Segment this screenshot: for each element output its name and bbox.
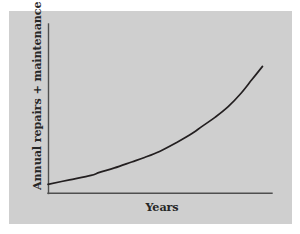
chart-canvas: Annual repairs + maintenance (£) Years <box>0 0 300 234</box>
x-axis-label: Years <box>144 200 178 214</box>
y-axis-label-main: Annual repairs + maintenance ( <box>30 0 44 191</box>
y-axis-label: Annual repairs + maintenance (£) <box>30 0 44 191</box>
repairs-maintenance-curve <box>48 66 263 184</box>
figure-root: Annual repairs + maintenance (£) Years <box>0 0 300 234</box>
